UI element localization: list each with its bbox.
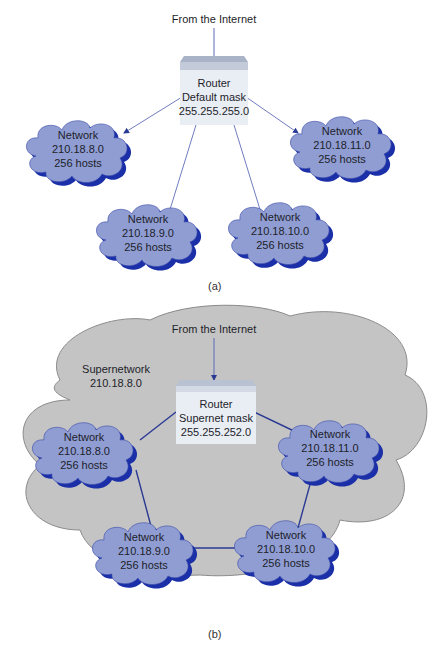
network-address: 210.18.11.0 <box>302 138 382 152</box>
internet-label-a: From the Internet <box>164 12 264 26</box>
router-label-b: Router Supernet mask 255.255.252.0 <box>172 397 260 439</box>
router-mask-label: Default mask <box>178 90 250 104</box>
network-address: 210.18.10.0 <box>240 224 320 238</box>
supernetwork-label: Supernetwork 210.18.8.0 <box>76 362 156 390</box>
network-label: Network 210.18.9.0 256 hosts <box>104 530 184 572</box>
network-title: Network <box>290 427 370 441</box>
network-hosts: 256 hosts <box>38 156 118 170</box>
network-title: Network <box>104 530 184 544</box>
network-label: Network 210.18.10.0 256 hosts <box>240 210 320 252</box>
network-hosts: 256 hosts <box>104 558 184 572</box>
link-router-net2 <box>168 125 196 216</box>
internet-label-b: From the Internet <box>164 322 264 336</box>
router-mask-value: 255.255.252.0 <box>172 425 260 439</box>
router-mask-label: Supernet mask <box>172 411 260 425</box>
link-router-net4 <box>246 97 298 133</box>
network-hosts: 256 hosts <box>44 458 124 472</box>
network-address: 210.18.8.0 <box>38 142 118 156</box>
caption-a: (a) <box>208 280 221 292</box>
network-hosts: 256 hosts <box>302 152 382 166</box>
network-address: 210.18.9.0 <box>108 226 188 240</box>
network-label: Network 210.18.11.0 256 hosts <box>302 124 382 166</box>
network-title: Network <box>246 528 326 542</box>
router-title: Router <box>172 397 260 411</box>
network-title: Network <box>302 124 382 138</box>
network-label: Network 210.18.8.0 256 hosts <box>44 430 124 472</box>
link-router-net3 <box>234 125 262 216</box>
network-hosts: 256 hosts <box>246 556 326 570</box>
network-address: 210.18.8.0 <box>44 444 124 458</box>
network-hosts: 256 hosts <box>108 240 188 254</box>
supernetwork-title: Supernetwork <box>76 362 156 376</box>
network-address: 210.18.10.0 <box>246 542 326 556</box>
network-address: 210.18.9.0 <box>104 544 184 558</box>
network-hosts: 256 hosts <box>290 455 370 469</box>
network-title: Network <box>44 430 124 444</box>
network-label: Network 210.18.9.0 256 hosts <box>108 212 188 254</box>
link-router-net1 <box>124 97 182 133</box>
router-mask-value: 255.255.255.0 <box>178 104 250 118</box>
network-label: Network 210.18.11.0 256 hosts <box>290 427 370 469</box>
network-label: Network 210.18.10.0 256 hosts <box>246 528 326 570</box>
supernetwork-address: 210.18.8.0 <box>76 376 156 390</box>
network-title: Network <box>240 210 320 224</box>
router-label-a: Router Default mask 255.255.255.0 <box>178 76 250 118</box>
network-label: Network 210.18.8.0 256 hosts <box>38 128 118 170</box>
network-title: Network <box>108 212 188 226</box>
network-address: 210.18.11.0 <box>290 441 370 455</box>
network-hosts: 256 hosts <box>240 238 320 252</box>
network-title: Network <box>38 128 118 142</box>
router-title: Router <box>178 76 250 90</box>
caption-b: (b) <box>208 628 221 640</box>
